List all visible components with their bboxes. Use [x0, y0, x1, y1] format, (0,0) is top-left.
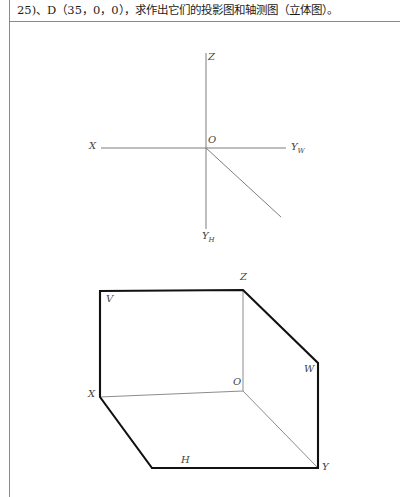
axis-label-yh-letter: Y: [202, 230, 209, 241]
box-label-w-plane: W: [304, 364, 314, 374]
box-label-v-plane: V: [106, 294, 113, 304]
axis-label-yw-subscript: W: [298, 147, 305, 155]
box-label-y: Y: [322, 462, 329, 472]
page-canvas: 25)、D（35，0，0），求作出它们的投影图和轴测图（立体图）。 Z X YW…: [0, 0, 400, 497]
axis-label-z: Z: [208, 52, 215, 62]
projection-axes-group: [101, 53, 286, 229]
axis-label-yh-subscript: H: [209, 236, 215, 244]
axis-label-yw: YW: [291, 142, 305, 155]
box-label-x: X: [88, 389, 95, 399]
technical-drawing-svg: [0, 0, 400, 497]
axonometric-box-group: [100, 290, 318, 468]
box-label-h-plane: H: [181, 455, 190, 465]
box-edge-x-to-origin: [100, 391, 243, 397]
yh-axis-diagonal-line: [206, 148, 281, 217]
box-label-z: Z: [240, 272, 247, 282]
box-edge-origin-to-y: [243, 391, 318, 468]
box-label-origin: O: [233, 377, 241, 387]
axis-label-origin: O: [208, 135, 216, 145]
axis-label-x: X: [89, 141, 96, 151]
axis-label-yh: YH: [202, 231, 215, 244]
box-outline-path: [100, 290, 318, 468]
axis-label-yw-letter: Y: [291, 141, 298, 152]
